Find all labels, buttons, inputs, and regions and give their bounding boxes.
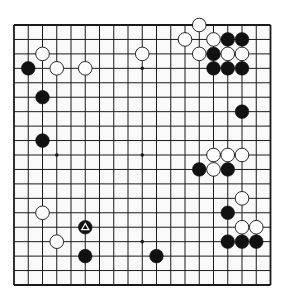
black-stone-disc bbox=[221, 206, 235, 220]
black-stone[interactable] bbox=[235, 62, 249, 76]
white-stone-disc bbox=[178, 33, 192, 47]
white-stone-disc bbox=[36, 206, 50, 220]
white-stone-disc bbox=[78, 62, 92, 76]
white-stone[interactable] bbox=[235, 220, 249, 234]
white-stone-disc bbox=[249, 220, 263, 234]
white-stone[interactable] bbox=[249, 220, 263, 234]
black-stone-disc bbox=[207, 47, 221, 61]
white-stone[interactable] bbox=[192, 18, 206, 32]
white-stone-disc bbox=[192, 18, 206, 32]
black-stone-disc bbox=[235, 105, 249, 119]
white-stone[interactable] bbox=[235, 192, 249, 206]
black-stone[interactable] bbox=[207, 62, 221, 76]
white-stone-disc bbox=[207, 163, 221, 177]
black-stone[interactable] bbox=[235, 33, 249, 47]
white-stone[interactable] bbox=[221, 148, 235, 162]
white-stone-disc bbox=[207, 148, 221, 162]
go-board[interactable] bbox=[0, 0, 281, 307]
white-stone-disc bbox=[207, 33, 221, 47]
star-point bbox=[140, 240, 144, 244]
white-stone[interactable] bbox=[36, 206, 50, 220]
black-stone[interactable] bbox=[207, 47, 221, 61]
black-stone-disc bbox=[249, 235, 263, 249]
white-stone-disc bbox=[36, 47, 50, 61]
black-stone-disc bbox=[221, 33, 235, 47]
black-stone[interactable] bbox=[221, 235, 235, 249]
white-stone[interactable] bbox=[235, 47, 249, 61]
black-stone-disc bbox=[221, 62, 235, 76]
black-stone-disc bbox=[235, 62, 249, 76]
white-stone[interactable] bbox=[207, 33, 221, 47]
black-stone[interactable] bbox=[78, 220, 92, 234]
white-stone[interactable] bbox=[50, 235, 64, 249]
star-point bbox=[140, 153, 144, 157]
white-stone[interactable] bbox=[221, 47, 235, 61]
black-stone[interactable] bbox=[221, 206, 235, 220]
black-stone-disc bbox=[78, 249, 92, 263]
white-stone-disc bbox=[221, 148, 235, 162]
white-stone[interactable] bbox=[207, 148, 221, 162]
black-stone[interactable] bbox=[221, 33, 235, 47]
white-stone[interactable] bbox=[36, 47, 50, 61]
white-stone-disc bbox=[221, 47, 235, 61]
black-stone-disc bbox=[36, 134, 50, 148]
black-stone[interactable] bbox=[78, 249, 92, 263]
black-stone-disc bbox=[221, 163, 235, 177]
white-stone[interactable] bbox=[235, 148, 249, 162]
white-stone-disc bbox=[235, 47, 249, 61]
star-point bbox=[55, 153, 59, 157]
white-stone[interactable] bbox=[192, 47, 206, 61]
black-stone[interactable] bbox=[221, 62, 235, 76]
white-stone[interactable] bbox=[50, 62, 64, 76]
black-stone-disc bbox=[235, 235, 249, 249]
white-stone[interactable] bbox=[135, 47, 149, 61]
black-stone[interactable] bbox=[235, 105, 249, 119]
white-stone[interactable] bbox=[78, 62, 92, 76]
white-stone[interactable] bbox=[178, 33, 192, 47]
black-stone[interactable] bbox=[235, 235, 249, 249]
white-stone[interactable] bbox=[207, 163, 221, 177]
white-stone-disc bbox=[50, 62, 64, 76]
white-stone-disc bbox=[135, 47, 149, 61]
white-stone-disc bbox=[235, 192, 249, 206]
white-stone-disc bbox=[50, 235, 64, 249]
black-stone-disc bbox=[21, 62, 35, 76]
black-stone-disc bbox=[192, 163, 206, 177]
black-stone[interactable] bbox=[249, 235, 263, 249]
black-stone-disc bbox=[36, 90, 50, 104]
black-stone-disc bbox=[221, 235, 235, 249]
black-stone[interactable] bbox=[221, 163, 235, 177]
black-stone-disc bbox=[235, 33, 249, 47]
white-stone-disc bbox=[235, 220, 249, 234]
black-stone-disc bbox=[207, 62, 221, 76]
black-stone[interactable] bbox=[150, 249, 164, 263]
black-stone[interactable] bbox=[192, 163, 206, 177]
black-stone[interactable] bbox=[36, 134, 50, 148]
star-point bbox=[140, 67, 144, 71]
white-stone-disc bbox=[235, 148, 249, 162]
black-stone-disc bbox=[150, 249, 164, 263]
black-stone[interactable] bbox=[36, 90, 50, 104]
white-stone-disc bbox=[192, 47, 206, 61]
black-stone[interactable] bbox=[21, 62, 35, 76]
